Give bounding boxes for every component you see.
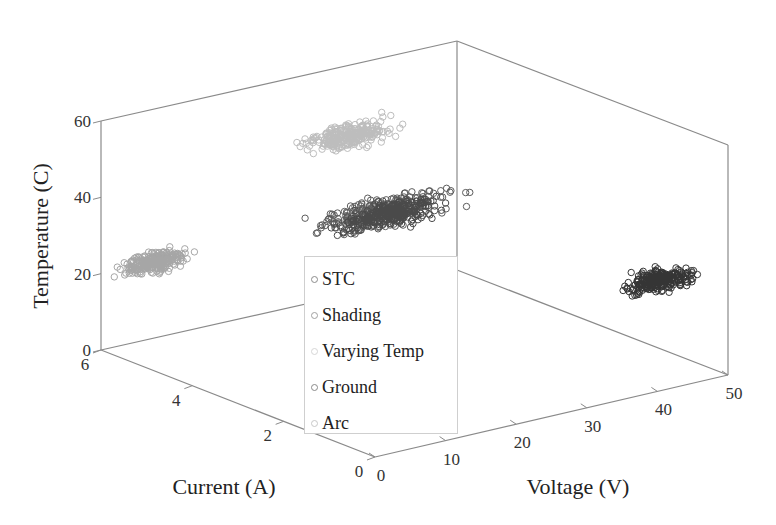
tick-label: 2 — [263, 426, 272, 445]
circle-marker-icon — [311, 420, 318, 427]
tick-label: 20 — [514, 433, 531, 452]
tick-mark — [93, 197, 101, 199]
circle-marker-icon — [311, 312, 318, 319]
data-point — [310, 150, 316, 156]
data-point — [111, 274, 117, 280]
legend-item-shading: Shading — [305, 297, 457, 333]
tick-label: 40 — [74, 188, 91, 207]
tick-label: 0 — [355, 462, 364, 481]
data-point — [302, 215, 308, 221]
tick-label: 10 — [443, 450, 460, 469]
tick-label: 4 — [172, 391, 181, 410]
x-axis-label: Voltage (V) — [527, 474, 630, 499]
legend-item-stc: STC — [305, 261, 457, 297]
legend-label: Arc — [322, 413, 349, 434]
tick-mark — [93, 274, 101, 276]
tick-label: 20 — [74, 265, 91, 284]
data-point — [467, 189, 473, 195]
legend-label: Ground — [322, 377, 377, 398]
data-point — [392, 133, 398, 139]
data-point — [294, 139, 300, 145]
legend-item-arc: Arc — [305, 405, 457, 441]
data-point — [334, 232, 340, 238]
tick-label: 60 — [74, 112, 91, 131]
z-axis-label: Temperature (C) — [28, 163, 53, 309]
tick-label: 40 — [655, 400, 672, 419]
legend-label: STC — [322, 269, 355, 290]
y-axis-label: Current (A) — [172, 474, 275, 499]
data-point — [191, 249, 197, 255]
legend-label: Varying Temp — [322, 341, 424, 362]
legend-item-ground: Ground — [305, 369, 457, 405]
legend: STC Shading Varying Temp Ground Arc — [304, 256, 458, 434]
tick-mark — [184, 386, 192, 389]
data-point — [463, 203, 469, 209]
tick-label: 0 — [377, 466, 386, 485]
legend-item-varying-temp: Varying Temp — [305, 333, 457, 369]
data-point — [388, 112, 394, 118]
tick-mark — [581, 404, 587, 408]
circle-marker-icon — [311, 384, 318, 391]
tick-mark — [367, 457, 375, 460]
data-point — [628, 269, 634, 275]
tick-label: 30 — [584, 417, 601, 436]
data-point — [378, 139, 384, 145]
tick-label: 50 — [726, 384, 743, 403]
circle-marker-icon — [311, 276, 318, 283]
top-back-right-edge — [457, 41, 728, 145]
circle-marker-icon — [311, 348, 318, 355]
data-point — [379, 109, 385, 115]
tick-mark — [276, 421, 284, 424]
top-back-left-edge — [101, 41, 457, 121]
data-point — [304, 147, 310, 153]
tick-mark — [510, 420, 516, 424]
tick-mark — [651, 387, 657, 391]
legend-label: Shading — [322, 305, 381, 326]
tick-label: 6 — [81, 355, 90, 374]
data-point — [438, 188, 444, 194]
tick-mark — [93, 121, 101, 123]
